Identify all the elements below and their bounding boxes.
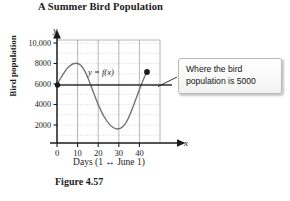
y-tick-label-2000: 2000: [35, 121, 51, 130]
callout-line-2: population is 5000: [186, 76, 275, 88]
data-point-right-endpoint: [144, 69, 150, 75]
x-axis-variable-name: x: [183, 138, 188, 148]
y-tick-label-6000: 6000: [35, 80, 51, 89]
plot-area: [57, 40, 160, 143]
y-tick-label-8000: 8000: [35, 59, 51, 68]
y-axis-variable-name: y: [52, 25, 57, 35]
bird-population-chart: y x 10,000 8000 6000 4000 2000 0 10 20 3…: [0, 0, 290, 201]
x-axis-label: Days (1 ↔ June 1): [34, 157, 184, 167]
y-tick-label-4000: 4000: [35, 100, 51, 109]
callout-line-1: Where the bird: [186, 64, 275, 76]
y-tick-label-10000: 10,000: [28, 39, 51, 48]
figure-caption: Figure 4.57: [55, 176, 103, 187]
curve-label: y = f(x): [87, 67, 114, 77]
annotation-callout: Where the bird population is 5000: [178, 58, 282, 94]
